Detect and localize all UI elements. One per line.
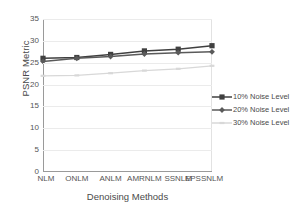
gridline [43, 41, 212, 42]
series-line [43, 66, 212, 76]
x-axis-title: Denoising Methods [43, 191, 212, 202]
square-marker [211, 91, 233, 103]
x-tick-label: ANLM [99, 174, 121, 184]
y-tick-label: 35 [20, 15, 39, 23]
y-tick-label: 10 [20, 124, 39, 132]
gridline [43, 85, 212, 86]
y-tick-label: 20 [20, 81, 39, 89]
y-tick-label: 5 [20, 146, 39, 154]
gridline [43, 63, 212, 64]
legend-item[interactable]: 30% Noise Level [211, 116, 300, 129]
gridline [43, 19, 212, 20]
x-tick-label: EPSSNLM [185, 174, 223, 184]
data-point-marker [108, 72, 113, 74]
x-tick-label: AMRNLM [127, 174, 162, 184]
diamond-marker [211, 104, 233, 116]
psnr-line-chart: PSNR Metric 05101520253035 NLMONLMANLMAM… [0, 0, 300, 213]
x-tick-label: NLM [38, 174, 55, 184]
legend-item[interactable]: 10% Noise Level [211, 90, 300, 103]
data-point-marker [209, 49, 215, 55]
legend-label: 30% Noise Level [233, 119, 289, 127]
legend-item[interactable]: 20% Noise Level [211, 103, 300, 116]
series-3 [41, 65, 215, 77]
data-point-marker [209, 43, 214, 48]
dash-marker [211, 117, 233, 129]
gridline [43, 106, 212, 107]
data-point-marker [176, 68, 181, 70]
x-axis-tick-labels: NLMONLMANLMAMRNLMSSNLMEPSSNLM [43, 174, 212, 188]
y-tick-label: 30 [20, 37, 39, 45]
y-tick-label: 15 [20, 102, 39, 110]
y-tick-label: 25 [20, 59, 39, 67]
data-point-marker [74, 74, 79, 76]
data-point-marker [210, 65, 215, 67]
gridline [43, 150, 212, 151]
plot-area [43, 19, 212, 172]
data-point-marker [142, 70, 147, 72]
gridline [43, 128, 212, 129]
chart-legend: 10% Noise Level20% Noise Level30% Noise … [211, 90, 300, 129]
y-axis-tick-labels: 05101520253035 [20, 0, 39, 213]
x-tick-label: ONLM [65, 174, 88, 184]
y-tick-label: 0 [20, 168, 39, 176]
series-layer [43, 19, 212, 172]
data-point-marker [41, 75, 46, 77]
legend-label: 10% Noise Level [233, 93, 289, 101]
legend-label: 20% Noise Level [233, 106, 289, 114]
